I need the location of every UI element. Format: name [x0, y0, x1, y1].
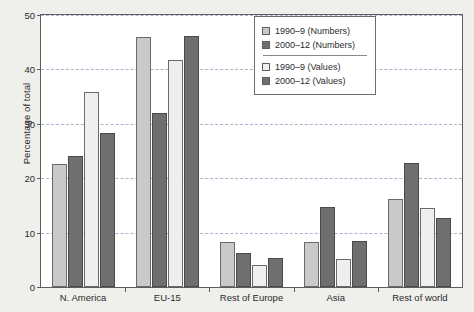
bar — [52, 164, 67, 287]
x-axis-tick-mark — [209, 287, 210, 292]
plot-area: 01020304050 — [40, 14, 463, 288]
bar — [100, 133, 115, 287]
bar — [136, 37, 151, 287]
plot-inner: 01020304050 — [41, 15, 462, 287]
gridline — [41, 124, 462, 125]
bar — [388, 199, 403, 287]
chart-legend: 1990–9 (Numbers) 2000–12 (Numbers) 1990–… — [254, 16, 376, 95]
x-axis-tick-mark — [378, 287, 379, 292]
y-axis-tick-mark — [37, 15, 41, 16]
y-axis-tick-mark — [37, 233, 41, 234]
bar — [184, 36, 199, 287]
legend-item-values-1990: 1990–9 (Values) — [262, 60, 368, 73]
x-axis-tick-label: N. America — [60, 292, 106, 303]
bar — [336, 259, 351, 287]
y-axis-tick-mark — [37, 124, 41, 125]
bar — [252, 265, 267, 287]
bar — [168, 60, 183, 287]
bar — [220, 242, 235, 287]
x-axis-tick-mark — [294, 287, 295, 292]
bar — [352, 241, 367, 287]
x-axis-tick-label: Rest of world — [392, 292, 447, 303]
gridline — [41, 15, 462, 16]
y-axis-tick-label: 40 — [7, 64, 35, 75]
bar — [304, 242, 319, 287]
y-axis-tick-mark — [37, 69, 41, 70]
x-axis-tick-mark — [125, 287, 126, 292]
legend-divider — [263, 55, 367, 56]
legend-item-numbers-2000: 2000–12 (Numbers) — [262, 38, 368, 51]
bar — [420, 208, 435, 287]
y-axis-tick-label: 0 — [7, 282, 35, 293]
legend-label: 1990–9 (Numbers) — [275, 26, 350, 36]
y-axis-tick-label: 30 — [7, 118, 35, 129]
gridline — [41, 69, 462, 70]
light-gray-swatch-icon — [262, 27, 270, 35]
y-axis-tick-label: 20 — [7, 173, 35, 184]
bar — [152, 113, 167, 287]
bar — [404, 163, 419, 287]
bar — [436, 218, 451, 287]
legend-label: 1990–9 (Values) — [275, 62, 340, 72]
legend-item-values-2000: 2000–12 (Values) — [262, 74, 368, 87]
bar — [68, 156, 83, 287]
legend-item-numbers-1990: 1990–9 (Numbers) — [262, 24, 368, 37]
legend-label: 2000–12 (Values) — [275, 76, 345, 86]
dark-gray-swatch-icon — [262, 77, 270, 85]
y-axis-tick-label: 50 — [7, 10, 35, 21]
bar-chart: Percentage of total 01020304050 N. Ameri… — [0, 0, 474, 312]
x-axis-tick-label: EU-15 — [154, 292, 181, 303]
legend-label: 2000–12 (Numbers) — [275, 40, 355, 50]
x-axis-tick-label: Asia — [326, 292, 344, 303]
y-axis-tick-mark — [37, 178, 41, 179]
bar — [268, 258, 283, 287]
y-axis-tick-label: 10 — [7, 227, 35, 238]
bar — [320, 207, 335, 288]
white-swatch-icon — [262, 63, 270, 71]
x-axis-tick-label: Rest of Europe — [220, 292, 283, 303]
dark-gray-swatch-icon — [262, 41, 270, 49]
bar — [236, 253, 251, 287]
bar — [84, 92, 99, 287]
y-axis-tick-mark — [37, 287, 41, 288]
